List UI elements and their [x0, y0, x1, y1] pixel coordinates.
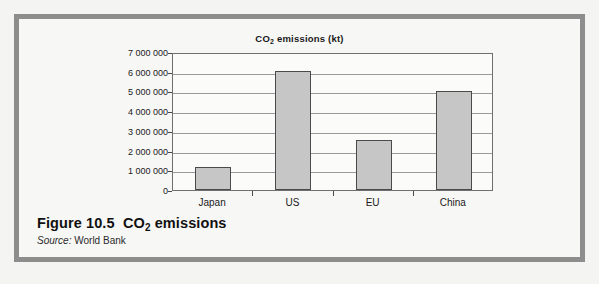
x-axis-label-us: US	[252, 197, 332, 208]
caption-figure-number: Figure 10.5	[37, 215, 115, 231]
x-axis-tick	[413, 191, 414, 196]
chart-title-pre: CO	[255, 33, 270, 44]
x-axis-ticks	[172, 191, 493, 196]
source-value: World Bank	[74, 235, 126, 246]
bar-chart: CO2 emissions (kt) 7 000 0006 000 0005 0…	[19, 19, 580, 204]
chart-title: CO2 emissions (kt)	[19, 33, 580, 44]
caption-title: Figure 10.5 CO2 emissions	[37, 215, 557, 231]
caption-title-subscript: 2	[145, 222, 151, 233]
x-axis-label-japan: Japan	[172, 197, 252, 208]
figure-frame: CO2 emissions (kt) 7 000 0006 000 0005 0…	[14, 14, 585, 262]
y-axis-ticks	[19, 53, 172, 191]
chart-title-subscript: 2	[270, 38, 274, 45]
bar-series	[173, 54, 492, 190]
x-axis-tick	[252, 191, 253, 196]
figure-caption: Figure 10.5 CO2 emissions Source: World …	[37, 215, 557, 246]
x-axis-label-eu: EU	[333, 197, 413, 208]
x-axis-label-china: China	[413, 197, 493, 208]
caption-title-post: emissions	[151, 215, 227, 231]
x-axis-labels: JapanUSEUChina	[172, 197, 493, 211]
caption-source: Source: World Bank	[37, 235, 557, 246]
bar-us[interactable]	[275, 71, 311, 190]
x-axis-tick	[333, 191, 334, 196]
figure-inner: CO2 emissions (kt) 7 000 0006 000 0005 0…	[19, 19, 580, 257]
figure-page: CO2 emissions (kt) 7 000 0006 000 0005 0…	[0, 0, 599, 284]
bar-china[interactable]	[436, 91, 472, 190]
chart-title-post: emissions (kt)	[274, 33, 344, 44]
caption-title-pre: CO	[123, 215, 145, 231]
plot-area	[172, 53, 493, 191]
bar-japan[interactable]	[195, 167, 231, 190]
source-label: Source:	[37, 235, 71, 246]
bar-eu[interactable]	[356, 140, 392, 190]
